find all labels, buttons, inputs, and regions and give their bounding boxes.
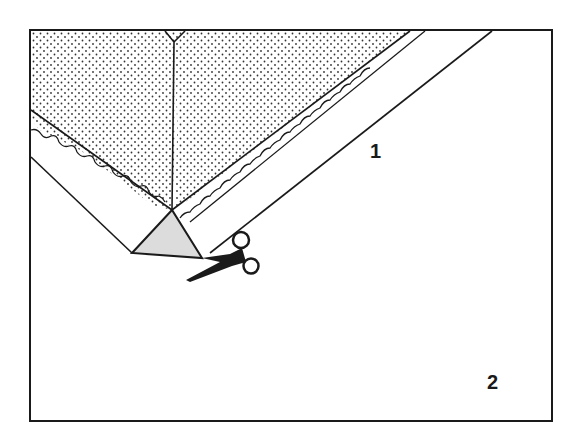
step-1-illustration xyxy=(31,31,492,282)
step-1-label: 1 xyxy=(370,141,381,161)
step-2-label: 2 xyxy=(487,372,498,392)
folded-corner-triangle xyxy=(132,210,202,258)
sewing-diagram xyxy=(0,0,563,437)
fabric-left-panel xyxy=(31,31,180,210)
